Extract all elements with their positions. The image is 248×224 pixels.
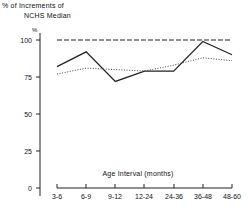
series-line-solid	[57, 41, 232, 81]
x-axis-label-48-60: 48-60	[215, 193, 248, 200]
x-axis-label-12-24: 12-24	[127, 193, 161, 200]
x-axis-title: Age Interval (months)	[58, 170, 218, 178]
y-axis-label-75: 75	[12, 74, 32, 81]
y-axis-label-0: 0	[12, 185, 32, 192]
plot-area	[0, 0, 248, 224]
chart-figure: % of Increments of NCHS Median % 100 75 …	[0, 0, 248, 224]
y-axis-label-50: 50	[12, 111, 32, 118]
y-axis-label-100: 100	[12, 37, 32, 44]
y-axis-label-25: 25	[12, 148, 32, 155]
